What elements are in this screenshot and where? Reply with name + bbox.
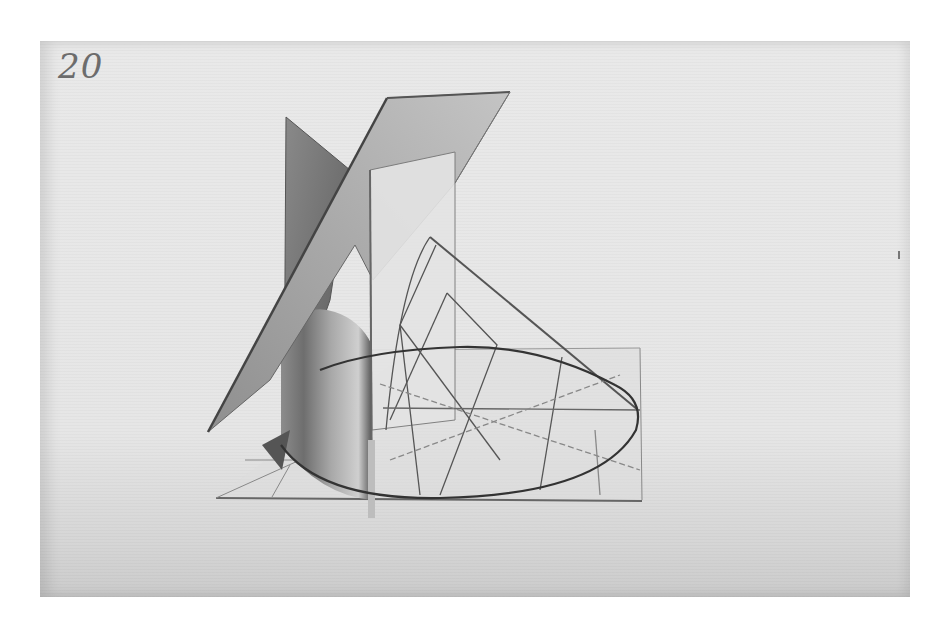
geometric-drawing <box>0 0 947 634</box>
